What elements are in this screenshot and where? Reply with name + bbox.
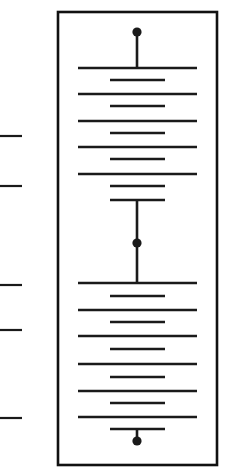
node-dot-node-middle [132,238,141,247]
technical-diagram-canvas [0,0,235,473]
figure-root [0,0,235,473]
node-dot-node-bottom [132,436,141,445]
node-dot-node-top [132,27,141,36]
